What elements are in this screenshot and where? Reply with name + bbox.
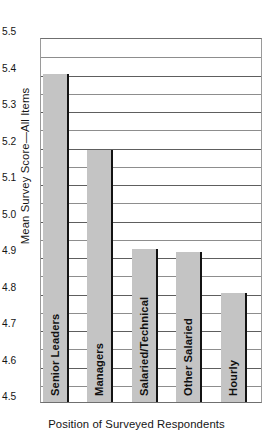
y-axis-tick-label: 5.4 [2,63,36,75]
bar-category-label: Other Salaried [182,318,194,396]
y-axis-tick-label: 5.1 [2,172,36,184]
y-axis-tick-label: 4.7 [2,318,36,330]
y-axis-tick-label: 5.0 [2,209,36,221]
bar-category-label: Managers [93,343,105,396]
bar-category-label: Salaried/Technical [138,297,150,396]
y-axis-tick-label: 4.9 [2,245,36,257]
y-axis-tick-labels: 4.54.64.74.84.95.05.15.25.35.45.5 [0,0,40,447]
y-axis-tick-label: 4.8 [2,282,36,294]
bar: Senior Leaders [43,74,69,403]
bar-category-label: Hourly [227,360,239,396]
bar: Salaried/Technical [132,249,158,402]
bar: Hourly [221,293,247,403]
bar: Other Salaried [176,252,202,402]
y-axis-tick-label: 5.5 [2,26,36,38]
plot-area: Senior LeadersManagersSalaried/Technical… [40,38,262,403]
bar-category-label: Senior Leaders [49,314,61,396]
x-axis-title: Position of Surveyed Respondents [0,418,273,430]
bar-series: Senior LeadersManagersSalaried/Technical… [41,39,261,402]
y-axis-tick-label: 5.2 [2,136,36,148]
y-axis-tick-label: 4.6 [2,355,36,367]
y-axis-tick-label: 4.5 [2,391,36,403]
bar: Managers [87,150,113,402]
bar-chart: Mean Survey Score—All Items 4.54.64.74.8… [0,0,273,447]
y-axis-tick-label: 5.3 [2,99,36,111]
